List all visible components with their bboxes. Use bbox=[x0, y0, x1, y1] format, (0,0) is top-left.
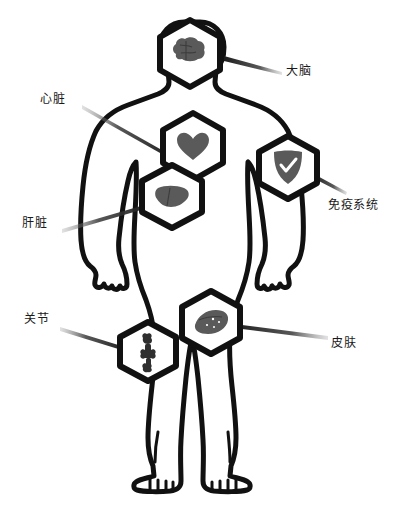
diagram-canvas bbox=[0, 0, 401, 522]
callout-badge-immune[interactable] bbox=[259, 136, 317, 199]
pointer-skin bbox=[234, 324, 328, 340]
organ-diagram: 大脑 心脏 肝脏 免疫系统 关节 皮肤 bbox=[0, 0, 401, 522]
pointer-brain bbox=[224, 56, 282, 75]
callout-badge-brain[interactable] bbox=[160, 20, 220, 87]
label-skin: 皮肤 bbox=[331, 336, 356, 350]
label-joint: 关节 bbox=[24, 312, 49, 326]
label-heart: 心脏 bbox=[40, 92, 65, 106]
label-liver: 肝脏 bbox=[22, 216, 47, 230]
label-immune-system: 免疫系统 bbox=[328, 198, 378, 212]
label-brain: 大脑 bbox=[286, 64, 311, 78]
callout-badge-liver[interactable] bbox=[142, 165, 202, 228]
callout-badge-skin[interactable] bbox=[182, 291, 240, 354]
body-outline bbox=[81, 22, 304, 492]
callout-badge-joint[interactable] bbox=[120, 322, 176, 381]
human-body-silhouette bbox=[81, 22, 304, 492]
